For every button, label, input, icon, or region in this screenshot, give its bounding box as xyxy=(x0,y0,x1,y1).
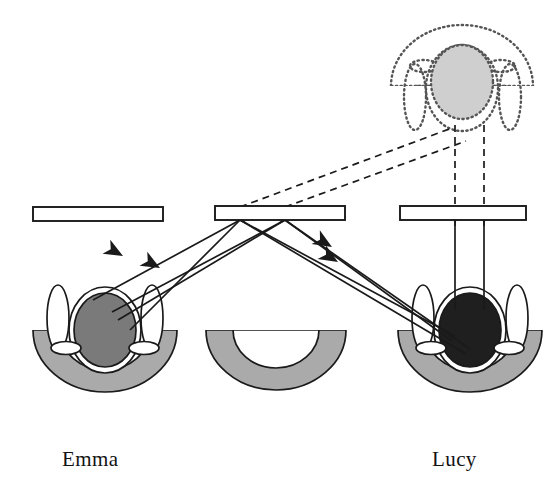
diagram-canvas: Emma Lucy xyxy=(0,0,550,485)
bar-middle[interactable] xyxy=(215,206,345,220)
lucy-node-left xyxy=(416,342,446,355)
lucy-node-right xyxy=(494,342,524,355)
label-emma: Emma xyxy=(62,447,119,471)
bar-left[interactable] xyxy=(33,207,163,221)
emma-node-right xyxy=(129,342,159,355)
emma-node-left xyxy=(51,342,81,355)
label-lucy: Lucy xyxy=(432,447,477,471)
ghost-center-ellipse xyxy=(431,45,493,119)
optics-diagram: Emma Lucy xyxy=(0,0,550,485)
lucy-center-ellipse xyxy=(439,293,501,367)
bar-group xyxy=(33,206,526,221)
bar-right[interactable] xyxy=(400,206,526,220)
